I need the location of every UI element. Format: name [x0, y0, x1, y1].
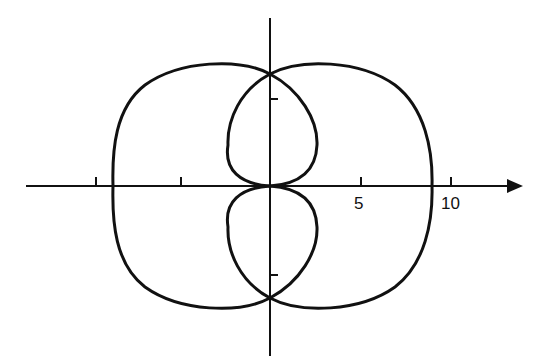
x-axis-arrow-icon: [507, 179, 523, 193]
x-tick-label-5: 5: [354, 194, 363, 213]
x-tick-label-10: 10: [441, 194, 460, 213]
upper-inner-loop: [227, 74, 317, 186]
x-axis: 5 10: [26, 177, 523, 213]
lower-inner-loop: [227, 186, 317, 298]
polar-curve-figure: 5 10: [0, 0, 537, 362]
